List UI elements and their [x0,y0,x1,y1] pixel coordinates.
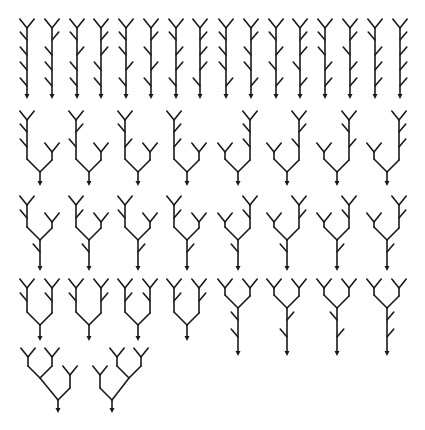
twig-left [82,244,89,252]
fork-right [52,19,59,28]
fork-right [150,143,157,152]
twig-right [251,78,258,86]
join-right [287,296,299,308]
join-right [187,228,199,240]
twig-right [337,329,344,337]
join-right [337,160,349,172]
twig-right [325,78,332,86]
fork-left [45,213,52,222]
join-left [76,227,89,240]
fork-left [342,111,349,120]
join-left [117,366,129,378]
fork-right [141,348,148,357]
fork-right [324,213,331,222]
twig-right [76,210,83,218]
arrow-head-icon [124,94,129,99]
twig-right [276,47,283,55]
fork-right [28,348,35,357]
fork-left [269,19,276,28]
fork-left [218,143,225,152]
tree-glyph [20,19,34,99]
tree-glyph [267,279,306,356]
fork-right [76,196,83,205]
twig-right [350,32,357,40]
twig-left [269,62,276,70]
twig-right [138,244,145,252]
row-5-nested [21,348,148,413]
fork-left [93,366,100,375]
twig-left [20,139,27,147]
fork-left [118,196,125,205]
twig-right [52,32,59,40]
twig-right [400,47,407,55]
fork-left [292,279,299,288]
join-right [387,228,399,240]
join-right [40,160,52,172]
fork-left [70,19,77,28]
fork-left [218,213,225,222]
twig-left [119,78,126,86]
tree-glyph [70,19,84,99]
tree-glyph [218,111,257,186]
twig-right [200,32,207,40]
twig-left [144,47,151,55]
fork-left [143,213,150,222]
twig-left [45,78,52,86]
twig-left [144,78,151,86]
join-left [27,312,40,325]
twig-left [280,244,287,252]
twig-right [375,62,382,70]
tree-glyph [218,196,257,271]
arrow-head-icon [75,94,80,99]
join-right [287,228,299,240]
fork-right [199,143,206,152]
tree-glyph [93,348,148,413]
fork-right [126,19,133,28]
twig-left [70,78,77,86]
fork-right [174,111,181,120]
fork-right [299,279,306,288]
twig-right [187,244,194,252]
join-right [89,160,101,172]
fork-left [21,348,28,357]
join-left [225,227,238,240]
fork-left [167,111,174,120]
join-right [238,228,250,240]
tree-glyph [367,279,406,356]
twig-left [193,78,200,86]
fork-left [69,196,76,205]
tree-glyph [20,279,59,341]
join-right [238,160,250,172]
fork-left [193,19,200,28]
fork-right [274,143,281,152]
join-right [89,313,101,325]
join-right [337,296,349,308]
fork-right [399,111,406,120]
join-right [238,296,250,308]
fork-right [27,111,34,120]
join-right [287,160,299,172]
join-right [187,160,199,172]
fork-right [27,279,34,288]
fork-left [192,279,199,288]
tree-glyph [267,196,306,271]
twig-right [375,78,382,86]
twig-left [118,210,125,218]
fork-left [94,19,101,28]
fork-left [367,213,374,222]
fork-left [45,143,52,152]
fork-right [399,279,406,288]
fork-left [392,111,399,120]
twig-left [69,139,76,147]
twig-left [169,78,176,86]
fork-right [374,279,381,288]
join-right [129,366,141,378]
fork-left [392,196,399,205]
arrow-head-icon [110,408,115,413]
twig-left [33,244,40,252]
join-left [374,227,387,240]
fork-right [374,143,381,152]
tree-glyph [167,279,206,341]
join-left [274,159,287,172]
twig-left [45,293,52,301]
